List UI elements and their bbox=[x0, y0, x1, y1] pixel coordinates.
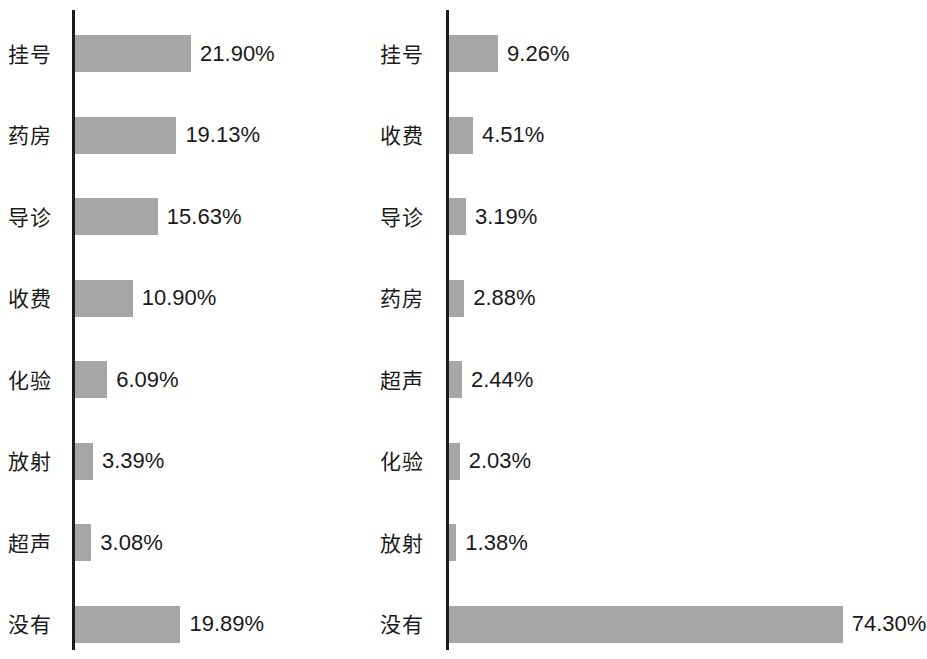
category-label: 药房 bbox=[8, 125, 66, 146]
value-label: 3.39% bbox=[102, 450, 164, 472]
value-label: 2.44% bbox=[471, 369, 533, 391]
bar bbox=[449, 524, 456, 561]
bar-row: 药房2.88% bbox=[370, 280, 927, 317]
category-label: 放射 bbox=[8, 451, 66, 472]
bar bbox=[75, 117, 176, 154]
bar-row: 超声2.44% bbox=[370, 361, 927, 398]
value-label: 1.38% bbox=[465, 532, 527, 554]
chart-panel-left: 挂号21.90%药房19.13%导诊15.63%收费10.90%化验6.09%放… bbox=[0, 0, 370, 659]
value-label: 3.19% bbox=[475, 206, 537, 228]
bar-row: 没有74.30% bbox=[370, 606, 927, 643]
bar bbox=[449, 361, 462, 398]
bar bbox=[75, 198, 158, 235]
bar-rows-right: 挂号9.26%收费4.51%导诊3.19%药房2.88%超声2.44%化验2.0… bbox=[370, 0, 927, 659]
bar bbox=[75, 606, 180, 643]
category-label: 药房 bbox=[380, 288, 440, 309]
value-label: 74.30% bbox=[852, 613, 927, 635]
bar bbox=[75, 443, 93, 480]
bar-row: 导诊15.63% bbox=[0, 198, 370, 235]
value-label: 19.13% bbox=[185, 124, 260, 146]
bar-row: 导诊3.19% bbox=[370, 198, 927, 235]
bar-row: 超声3.08% bbox=[0, 524, 370, 561]
category-label: 放射 bbox=[380, 532, 440, 553]
category-label: 化验 bbox=[8, 369, 66, 390]
category-label: 超声 bbox=[8, 532, 66, 553]
category-label: 导诊 bbox=[8, 206, 66, 227]
category-label: 收费 bbox=[8, 288, 66, 309]
bar-row: 挂号21.90% bbox=[0, 35, 370, 72]
bar bbox=[449, 117, 473, 154]
value-label: 3.08% bbox=[100, 532, 162, 554]
value-label: 2.03% bbox=[469, 450, 531, 472]
bar bbox=[75, 280, 133, 317]
bar bbox=[75, 524, 91, 561]
category-label: 没有 bbox=[380, 614, 440, 635]
bar-row: 收费4.51% bbox=[370, 117, 927, 154]
bar-rows-left: 挂号21.90%药房19.13%导诊15.63%收费10.90%化验6.09%放… bbox=[0, 0, 370, 659]
value-label: 6.09% bbox=[116, 369, 178, 391]
bar-row: 放射1.38% bbox=[370, 524, 927, 561]
value-label: 21.90% bbox=[200, 43, 275, 65]
bar-row: 放射3.39% bbox=[0, 443, 370, 480]
value-label: 4.51% bbox=[482, 124, 544, 146]
value-label: 15.63% bbox=[167, 206, 242, 228]
category-label: 导诊 bbox=[380, 206, 440, 227]
value-label: 19.89% bbox=[189, 613, 264, 635]
value-label: 9.26% bbox=[507, 43, 569, 65]
chart-panel-right: 挂号9.26%收费4.51%导诊3.19%药房2.88%超声2.44%化验2.0… bbox=[370, 0, 927, 659]
bar-row: 挂号9.26% bbox=[370, 35, 927, 72]
category-label: 挂号 bbox=[380, 43, 440, 64]
bar bbox=[449, 443, 460, 480]
category-label: 化验 bbox=[380, 451, 440, 472]
category-label: 超声 bbox=[380, 369, 440, 390]
category-label: 没有 bbox=[8, 614, 66, 635]
category-label: 收费 bbox=[380, 125, 440, 146]
bar bbox=[449, 198, 466, 235]
bar-row: 收费10.90% bbox=[0, 280, 370, 317]
value-label: 10.90% bbox=[142, 287, 217, 309]
bar-row: 化验2.03% bbox=[370, 443, 927, 480]
bar bbox=[449, 35, 498, 72]
bar-row: 没有19.89% bbox=[0, 606, 370, 643]
bar-row: 药房19.13% bbox=[0, 117, 370, 154]
category-label: 挂号 bbox=[8, 43, 66, 64]
bar-row: 化验6.09% bbox=[0, 361, 370, 398]
value-label: 2.88% bbox=[473, 287, 535, 309]
bar bbox=[75, 361, 107, 398]
dual-bar-chart-figure: 挂号21.90%药房19.13%导诊15.63%收费10.90%化验6.09%放… bbox=[0, 0, 927, 659]
bar bbox=[449, 280, 464, 317]
bar bbox=[75, 35, 191, 72]
bar bbox=[449, 606, 843, 643]
